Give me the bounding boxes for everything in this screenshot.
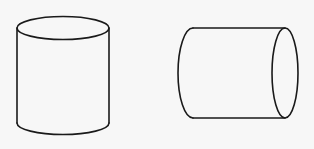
cylinders-diagram	[0, 0, 314, 149]
background	[0, 0, 314, 149]
